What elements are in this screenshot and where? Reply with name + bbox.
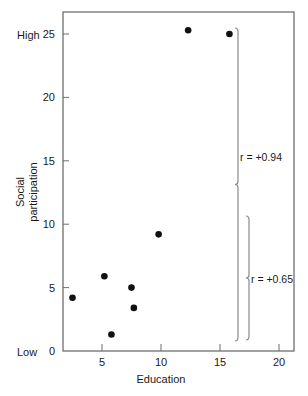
y-tick-label: 20	[43, 91, 55, 103]
bracket-r-094	[235, 28, 238, 341]
data-points	[69, 27, 233, 338]
y-tick-label: 5	[49, 282, 55, 294]
plot-frame	[63, 12, 294, 351]
scatter-chart: 05101520255101520 High Low Social partic…	[0, 0, 308, 396]
data-point	[185, 27, 192, 34]
data-point	[155, 231, 162, 238]
y-axis-title: Social participation	[14, 162, 39, 221]
data-point	[101, 273, 108, 280]
x-tick-label: 15	[214, 356, 226, 368]
y-tick-label: 15	[43, 155, 55, 167]
data-point	[128, 284, 135, 291]
y-axis-title-line1: Social	[14, 177, 26, 207]
x-tick-label: 20	[273, 356, 285, 368]
x-tick-label: 5	[99, 356, 105, 368]
plot-border	[63, 12, 294, 351]
annotation-r-094: r = +0.94	[240, 151, 282, 163]
bracket-r-065	[246, 216, 249, 340]
data-point	[69, 294, 76, 301]
x-tick-label: 10	[155, 356, 167, 368]
y-tick-label: 0	[49, 345, 55, 357]
data-point	[131, 305, 138, 312]
y-tick-label: 25	[43, 28, 55, 40]
x-axis-title: Education	[137, 373, 186, 385]
data-point	[226, 31, 233, 38]
correlation-brackets	[235, 28, 249, 341]
y-label-low: Low	[17, 346, 37, 358]
annotation-r-065: r = +0.65	[251, 273, 293, 285]
y-tick-label: 10	[43, 218, 55, 230]
y-label-high: High	[17, 29, 40, 41]
y-axis-title-line2: participation	[27, 162, 39, 221]
data-point	[108, 331, 115, 338]
